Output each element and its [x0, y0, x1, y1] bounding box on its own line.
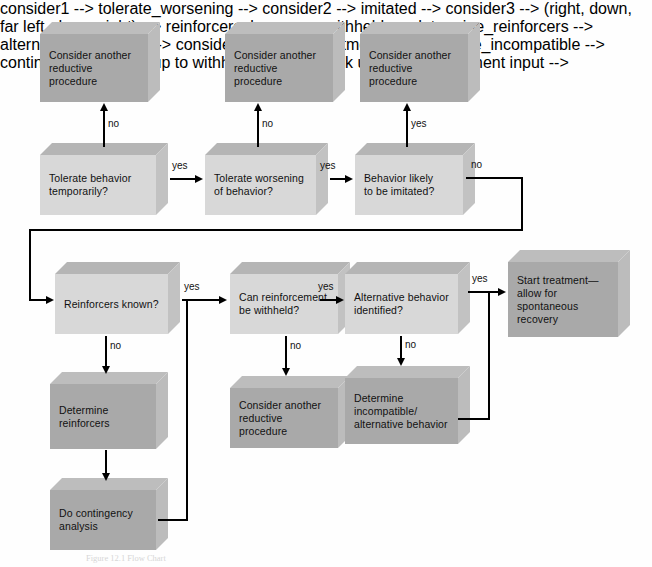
box-top-face	[230, 376, 350, 388]
box-top-face	[345, 262, 470, 274]
box-front-face: Tolerate behavior temporarily?	[40, 155, 156, 215]
node-consider3: Consider another reductive procedure	[360, 22, 480, 102]
edge-e3-arrowhead	[254, 103, 262, 111]
edge-e6-seg3	[29, 229, 523, 231]
box-top-face	[360, 22, 480, 34]
edge-e5-line	[406, 110, 408, 147]
node-label: Reinforcers known?	[64, 298, 159, 311]
box-front-face: Do contingency analysis	[50, 490, 156, 550]
box-top-face	[40, 22, 160, 34]
flowchart-diagram: Consider another reductive procedure Con…	[0, 0, 652, 567]
edge-e12-label: no	[405, 339, 416, 350]
edge-e15-seg1	[458, 418, 490, 420]
edge-e12-line	[400, 336, 402, 360]
node-label: Behavior likely to be imitated?	[364, 172, 434, 198]
box-top-face	[345, 366, 470, 378]
edge-e8-line	[105, 336, 107, 368]
box-top-face	[230, 262, 350, 274]
edge-e13-arrowhead	[102, 473, 110, 481]
edge-e15-seg2	[488, 291, 490, 420]
box-front-face: Consider another reductive procedure	[360, 34, 468, 102]
edge-e12-arrowhead	[397, 358, 405, 366]
node-alternative-identified: Alternative behavior identified?	[345, 262, 470, 334]
box-side-face	[316, 143, 328, 215]
box-top-face	[205, 143, 328, 155]
node-consider2: Consider another reductive procedure	[225, 22, 345, 102]
box-top-face	[355, 143, 475, 155]
edge-e6-seg4	[29, 229, 31, 300]
edge-e10-arrowhead	[282, 368, 290, 376]
box-front-face: Reinforcers known?	[55, 274, 168, 334]
box-side-face	[156, 372, 168, 449]
box-side-face	[463, 143, 475, 215]
edge-e1-label: no	[108, 118, 119, 129]
node-reinforcers-known: Reinforcers known?	[55, 262, 180, 334]
box-front-face: Alternative behavior identified?	[345, 274, 458, 334]
box-side-face	[458, 366, 470, 444]
edge-e15-seg3	[488, 291, 502, 293]
node-imitated: Behavior likely to be imitated?	[355, 143, 475, 215]
edge-e6-arrowhead	[46, 296, 54, 304]
box-front-face: Tolerate worsening of behavior?	[205, 155, 316, 215]
box-side-face	[156, 478, 168, 550]
node-label: Determine reinforcers	[59, 404, 110, 430]
node-tolerate-behavior: Tolerate behavior temporarily?	[40, 143, 168, 215]
edge-e10-line	[285, 336, 287, 370]
edge-e9-arrowhead	[336, 296, 344, 304]
edge-e10-label: no	[290, 340, 301, 351]
edge-e4-arrowhead	[345, 175, 353, 183]
edge-e6-label: no	[471, 159, 482, 170]
node-label: Determine incompatible/ alternative beha…	[354, 392, 448, 431]
edge-e11-label: yes	[472, 273, 488, 284]
node-label: Tolerate worsening of behavior?	[214, 172, 304, 198]
edge-e2-arrowhead	[195, 175, 203, 183]
edge-e14-seg1	[158, 519, 188, 521]
edge-e6-seg2	[521, 177, 523, 230]
box-side-face	[458, 262, 470, 334]
edge-e9-label: yes	[318, 281, 334, 292]
edge-e5-label: yes	[411, 118, 427, 129]
node-label: Alternative behavior identified?	[354, 291, 449, 317]
node-label: Tolerate behavior temporarily?	[49, 172, 131, 198]
node-determine-incompatible: Determine incompatible/ alternative beha…	[345, 366, 470, 444]
node-label: Consider another reductive procedure	[239, 399, 329, 438]
edge-e1-arrowhead	[100, 103, 108, 111]
box-side-face	[148, 22, 160, 102]
edge-e3-line	[257, 110, 259, 147]
box-top-face	[55, 262, 180, 274]
node-can-withhold: Can reinforcement be withheld?	[230, 262, 350, 334]
box-side-face	[468, 22, 480, 102]
node-label: Consider another reductive procedure	[369, 49, 459, 88]
edge-e6-seg1	[466, 177, 523, 179]
node-label: Consider another reductive procedure	[234, 49, 324, 88]
node-consider1: Consider another reductive procedure	[40, 22, 160, 102]
node-label: Start treatment— allow for spontaneous r…	[517, 274, 599, 326]
node-contingency-analysis: Do contingency analysis	[50, 478, 168, 550]
edge-e14-seg2	[186, 299, 188, 521]
node-label: Consider another reductive procedure	[49, 49, 139, 88]
edge-e4-label: yes	[320, 160, 336, 171]
edge-e1-line	[103, 110, 105, 147]
node-consider4: Consider another reductive procedure	[230, 376, 350, 448]
box-front-face: Determine incompatible/ alternative beha…	[345, 378, 458, 444]
edge-e5-arrowhead	[403, 103, 411, 111]
edge-e6-seg5	[29, 299, 47, 301]
edge-e8-label: no	[110, 340, 121, 351]
box-side-face	[333, 22, 345, 102]
box-top-face	[225, 22, 345, 34]
box-top-face	[508, 250, 630, 262]
edge-e2-label: yes	[172, 160, 188, 171]
box-side-face	[156, 143, 168, 215]
edge-e4-line	[330, 178, 346, 180]
edge-e8-arrowhead	[102, 366, 110, 374]
box-front-face: Consider another reductive procedure	[40, 34, 148, 102]
node-determine-reinforcers: Determine reinforcers	[50, 372, 168, 449]
box-front-face: Consider another reductive procedure	[230, 388, 338, 448]
edge-e14-seg3	[186, 299, 220, 301]
box-front-face: Start treatment— allow for spontaneous r…	[508, 262, 618, 337]
box-side-face	[168, 262, 180, 334]
box-front-face: Behavior likely to be imitated?	[355, 155, 463, 215]
edge-e2-line	[170, 178, 196, 180]
node-start-treatment: Start treatment— allow for spontaneous r…	[508, 250, 630, 337]
box-front-face: Consider another reductive procedure	[225, 34, 333, 102]
